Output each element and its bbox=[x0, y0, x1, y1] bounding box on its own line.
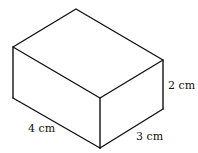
bottom-left-edge bbox=[13, 98, 100, 148]
width-label: 3 cm bbox=[136, 130, 164, 143]
length-label: 4 cm bbox=[28, 122, 56, 135]
top-face bbox=[13, 9, 163, 98]
cuboid-diagram: 2 cm 4 cm 3 cm bbox=[0, 0, 198, 153]
height-label: 2 cm bbox=[168, 79, 196, 92]
